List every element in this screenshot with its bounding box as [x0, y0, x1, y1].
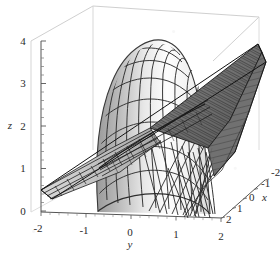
z-axis-label: z [7, 119, 13, 131]
y-tick-0: 0 [127, 226, 133, 238]
z-tick-3: 3 [20, 77, 26, 89]
x-tick-0: 0 [249, 191, 255, 203]
y-axis-label: y [127, 238, 133, 250]
y-tick-1: 1 [173, 228, 179, 240]
x-tick-2: 2 [226, 213, 232, 225]
z-tick-2: 2 [20, 120, 26, 132]
y-tick-neg2: -2 [33, 222, 42, 234]
z-axis-tick-labels: 4 3 2 1 0 [20, 35, 26, 217]
x-axis-label: x [261, 191, 267, 203]
z-axis-ticks [41, 41, 46, 211]
x-tick-neg2: -2 [271, 166, 280, 178]
z-tick-0: 0 [20, 205, 26, 217]
y-tick-2: 2 [218, 230, 224, 242]
y-tick-neg1: -1 [79, 224, 88, 236]
x-tick-1: 1 [237, 202, 243, 214]
x-tick-neg1: -1 [261, 177, 270, 189]
z-tick-1: 1 [20, 162, 26, 174]
z-tick-4: 4 [20, 35, 26, 47]
x-axis-tick-labels: -2 -1 0 1 2 [226, 166, 280, 225]
surface-plot-figure: 4 3 2 1 0 z -2 -1 0 1 2 y -2 -1 0 1 2 x [0, 0, 280, 263]
